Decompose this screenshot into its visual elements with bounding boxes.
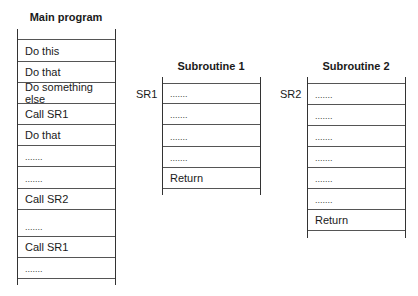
sr2-row-1: ....... [308, 104, 405, 125]
main-row-2: Do that [18, 61, 115, 82]
sr1-label: SR1 [136, 88, 157, 100]
main-row-9: ....... [18, 209, 115, 236]
sr2-row-0: ....... [308, 83, 405, 104]
sr1-row-2: ....... [163, 124, 260, 146]
sr2-row-3: ....... [308, 146, 405, 167]
sr1-row-end [163, 188, 260, 195]
sr2-label: SR2 [280, 88, 301, 100]
main-row-7: ....... [18, 166, 115, 188]
main-row-11: ....... [18, 257, 115, 278]
sr1-row-1: ....... [163, 103, 260, 124]
main-row-4: Call SR1 [18, 103, 115, 124]
sr2-row-2: ....... [308, 125, 405, 146]
sr1-row-3: ....... [163, 146, 260, 167]
subroutine-2-title: Subroutine 2 [307, 60, 405, 72]
main-row-3: Do something else [18, 82, 115, 103]
main-row-end [18, 278, 115, 285]
sr2-row-6: Return [308, 209, 405, 230]
main-row-6: ....... [18, 145, 115, 166]
sr2-row-4: ....... [308, 167, 405, 188]
sr2-row-5: ....... [308, 188, 405, 209]
subroutine-2-column: ....... ....... ....... ....... ....... … [307, 77, 406, 238]
sr1-row-4: Return [163, 167, 260, 188]
subroutine-1-title: Subroutine 1 [162, 60, 260, 72]
main-row-8: Call SR2 [18, 188, 115, 209]
main-row-10: Call SR1 [18, 236, 115, 257]
main-program-title: Main program [17, 11, 115, 23]
sr1-row-0: ....... [163, 83, 260, 103]
main-program-column: Do this Do that Do something else Call S… [17, 29, 116, 285]
subroutine-1-column: ....... ....... ....... ....... Return [162, 77, 261, 195]
main-row-5: Do that [18, 124, 115, 145]
sr2-row-end [308, 230, 405, 238]
main-row-1: Do this [18, 39, 115, 61]
